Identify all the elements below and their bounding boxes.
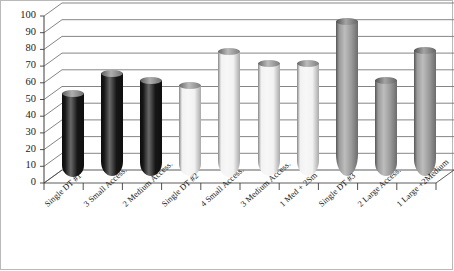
bar-body — [62, 93, 84, 177]
bar-cap — [297, 60, 319, 67]
chart-container: 1009080706050403020100 Single DT #13 Sma… — [0, 0, 454, 271]
bar-body — [140, 80, 162, 177]
bar-4 — [179, 85, 201, 177]
bar-body — [179, 85, 201, 177]
bar-1 — [62, 93, 84, 177]
bar-body — [414, 50, 436, 177]
x-axis-category-labels: Single DT #13 Small Access.2 Medium Acce… — [0, 196, 454, 271]
bar-2 — [101, 73, 123, 177]
bar-6 — [258, 63, 280, 177]
bar-body — [218, 51, 240, 176]
bar-10 — [414, 50, 436, 177]
bar-cap — [375, 77, 397, 84]
bar-cap — [414, 47, 436, 54]
bar-body — [336, 21, 358, 176]
bar-cap — [179, 82, 201, 89]
bar-body — [101, 73, 123, 177]
bar-5 — [218, 51, 240, 176]
bar-cap — [258, 60, 280, 67]
bar-body — [375, 80, 397, 177]
bar-body — [297, 63, 319, 177]
bar-cap — [140, 77, 162, 84]
bar-7 — [297, 63, 319, 177]
bar-cap — [62, 90, 84, 97]
bar-9 — [375, 80, 397, 177]
bar-body — [258, 63, 280, 177]
bar-cap — [101, 70, 123, 77]
bar-8 — [336, 21, 358, 176]
bar-3 — [140, 80, 162, 177]
